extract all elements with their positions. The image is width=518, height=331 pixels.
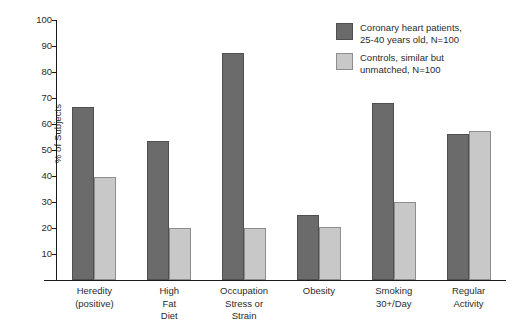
y-axis-tick-label: 80 (41, 66, 52, 77)
bar-chart: % of Subjects 102030405060708090100 Here… (0, 0, 518, 331)
y-axis-tick-label: 50 (41, 144, 52, 155)
bar (394, 202, 416, 280)
legend-swatch (336, 53, 353, 70)
legend-entry: Controls, similar but unmatched, N=100 (336, 52, 516, 76)
bar-group (297, 20, 341, 280)
y-axis-tick-label: 90 (41, 40, 52, 51)
chart-legend: Coronary heart patients, 25-40 years old… (336, 22, 516, 82)
bar (319, 227, 341, 280)
x-axis-line (44, 280, 506, 281)
y-axis-tick-label: 100 (36, 14, 52, 25)
bar-group (72, 20, 116, 280)
legend-entry: Coronary heart patients, 25-40 years old… (336, 22, 516, 46)
y-axis-tick-label: 40 (41, 170, 52, 181)
bar (469, 131, 491, 281)
bar (72, 107, 94, 280)
x-axis-label: Regular Activity (421, 285, 516, 310)
bar (147, 141, 169, 280)
bar (297, 215, 319, 280)
bar (244, 228, 266, 280)
bar (222, 53, 244, 281)
legend-label: Coronary heart patients, 25-40 years old… (360, 22, 462, 46)
legend-label: Controls, similar but unmatched, N=100 (360, 52, 444, 76)
bar (372, 103, 394, 280)
legend-swatch (336, 23, 353, 40)
y-axis-tick-label: 30 (41, 196, 52, 207)
y-axis-tick-label: 60 (41, 118, 52, 129)
y-axis-tick-label: 20 (41, 222, 52, 233)
bar (169, 228, 191, 280)
bar-group (222, 20, 266, 280)
y-axis-tick-label: 10 (41, 248, 52, 259)
bar (94, 177, 116, 280)
bar-group (147, 20, 191, 280)
bar (447, 134, 469, 280)
y-axis-tick-label: 70 (41, 92, 52, 103)
